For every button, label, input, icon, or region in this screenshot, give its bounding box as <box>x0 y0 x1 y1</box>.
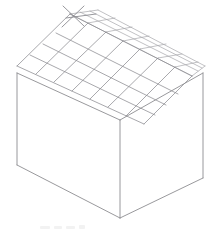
wireframe-box-illustration <box>0 0 216 235</box>
figure-container <box>0 0 216 235</box>
